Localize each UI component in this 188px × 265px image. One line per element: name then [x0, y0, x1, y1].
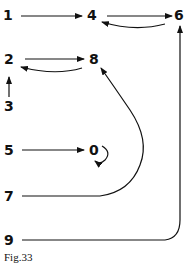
node-7: 7 [4, 189, 14, 203]
node-6: 6 [174, 8, 184, 22]
edge-7-8 [22, 68, 143, 196]
edge-9-6 [22, 26, 180, 240]
node-3: 3 [4, 99, 14, 113]
node-5: 5 [4, 143, 14, 157]
node-0: 0 [89, 143, 99, 157]
edges-layer [0, 0, 188, 265]
node-1: 1 [3, 8, 13, 22]
node-4: 4 [87, 8, 97, 22]
node-8: 8 [89, 52, 99, 66]
node-9: 9 [4, 233, 14, 247]
figure-caption: Fig.33 [4, 251, 32, 263]
node-2: 2 [4, 52, 14, 66]
edge-8-2 [21, 67, 82, 72]
figure-canvas: 1 4 6 2 8 3 5 0 7 9 Fig.33 [0, 0, 188, 265]
edge-6-4 [102, 22, 165, 28]
